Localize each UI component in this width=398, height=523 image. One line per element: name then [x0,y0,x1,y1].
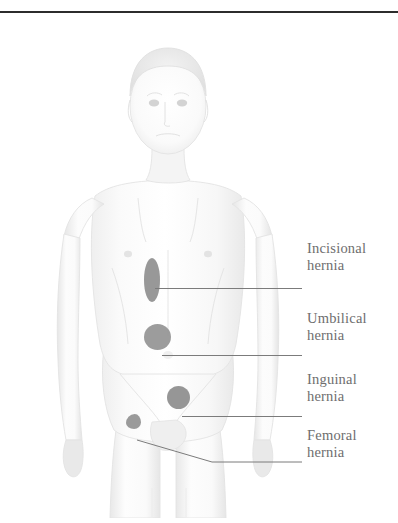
label-inguinal-hernia: Inguinal hernia [307,371,357,405]
label-femoral-line2: hernia [307,444,357,461]
label-incisional-hernia: Incisional hernia [307,240,366,274]
label-incisional-line2: hernia [307,257,366,274]
label-umbilical-line1: Umbilical [307,310,367,326]
label-femoral-hernia: Femoral hernia [307,427,357,461]
label-femoral-line1: Femoral [307,427,357,443]
label-umbilical-hernia: Umbilical hernia [307,310,367,344]
label-incisional-line1: Incisional [307,240,366,256]
label-umbilical-line2: hernia [307,327,367,344]
label-inguinal-line1: Inguinal [307,371,357,387]
hernia-diagram-page: Incisional hernia Umbilical hernia Ingui… [0,0,398,523]
label-inguinal-line2: hernia [307,388,357,405]
